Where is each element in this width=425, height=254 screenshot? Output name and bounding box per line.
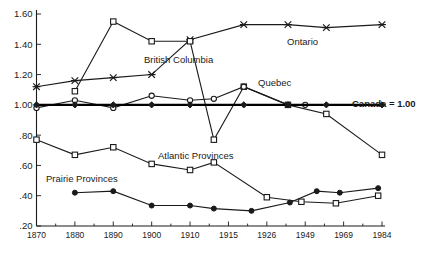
y-tick-label: .60 [19,160,32,171]
data-point-marker [111,19,116,24]
canada-reference-label: Canada = 1.00 [352,98,416,109]
chart-container: 1.601.401.201.00.80.60.40.20 18701880189… [0,0,425,254]
data-point-marker [299,199,304,204]
y-tick-label: 1.20 [14,69,33,80]
x-tick-label: 1969 [334,230,353,240]
data-point-marker [314,189,319,194]
data-point-marker [187,167,192,172]
data-point-marker [72,190,77,195]
data-point-marker [72,152,77,157]
y-tick-label: 1.60 [14,8,33,19]
series-label-ontario: Ontario [287,36,318,47]
x-tick-label: 1880 [65,230,84,240]
x-tick-label: 1890 [104,230,123,240]
data-point-marker [188,203,193,208]
data-point-marker [211,96,216,101]
data-point-marker [149,203,154,208]
y-tick-label: .80 [19,130,32,141]
y-tick-label: 1.00 [14,99,33,110]
data-point-marker [149,93,154,98]
data-point-marker [337,190,342,195]
x-tick-label: 1915 [219,230,238,240]
data-point-marker [72,89,77,94]
series-label-british-columbia: British Columbia [144,54,214,65]
series-label-atlantic-provinces: Atlantic Provinces [158,150,234,161]
x-tick-label: 1900 [142,230,161,240]
y-tick-label: .40 [19,190,32,201]
series-label-prairie-provinces: Prairie Provinces [46,173,118,184]
data-point-marker [149,161,154,166]
line-chart: 1.601.401.201.00.80.60.40.20 18701880189… [0,0,425,254]
data-point-marker [287,200,292,205]
data-point-marker [187,39,192,44]
data-point-marker [379,152,384,157]
data-point-marker [149,39,154,44]
data-point-marker [211,137,216,142]
data-point-marker [111,145,116,150]
data-point-marker [375,193,380,198]
x-tick-label: 1926 [257,230,276,240]
x-tick-label: 1984 [373,230,392,240]
data-point-marker [241,84,246,89]
x-tick-label: 1870 [27,230,46,240]
data-point-marker [34,137,39,142]
data-point-marker [376,186,381,191]
data-point-marker [249,208,254,213]
data-point-marker [333,201,338,206]
y-tick-label: 1.40 [14,39,33,50]
series-label-quebec: Quebec [258,77,292,88]
data-point-marker [264,195,269,200]
x-tick-label: 1949 [296,230,315,240]
chart-background [0,0,425,254]
data-point-marker [324,111,329,116]
data-point-marker [111,189,116,194]
x-tick-label: 1910 [181,230,200,240]
data-point-marker [211,206,216,211]
